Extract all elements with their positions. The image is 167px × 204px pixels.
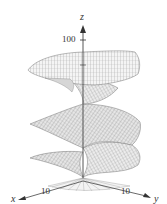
x-axis-label: x xyxy=(11,194,15,204)
surface-lower-right-lobe xyxy=(83,142,140,177)
surface-middle-band xyxy=(30,104,141,148)
z-axis-label: z xyxy=(80,12,84,22)
surface-upper-band-underside xyxy=(45,78,74,92)
y-axis-arrowhead-icon xyxy=(143,193,151,198)
x-axis-arrowhead-icon xyxy=(18,196,26,200)
y-axis-label: y xyxy=(154,194,158,204)
x-tick-label: 10 xyxy=(41,187,50,196)
surface-plot xyxy=(0,0,167,204)
z-axis-arrowhead-icon xyxy=(80,25,86,33)
x-axis xyxy=(18,181,83,200)
surface-lower-left-lobe xyxy=(30,151,83,177)
z-tick-label: 100 xyxy=(62,35,76,44)
surface-upper-band xyxy=(28,51,140,85)
y-tick-label: 10 xyxy=(121,187,130,196)
